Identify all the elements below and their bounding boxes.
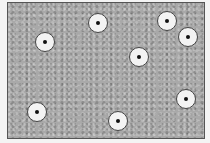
center-dot-icon — [43, 40, 47, 44]
center-dot-icon — [165, 19, 169, 23]
circle-dot-marker — [178, 27, 198, 47]
center-dot-icon — [137, 55, 141, 59]
center-dot-icon — [184, 97, 188, 101]
circle-dot-marker — [27, 102, 47, 122]
circle-dot-marker — [35, 32, 55, 52]
center-dot-icon — [186, 35, 190, 39]
center-dot-icon — [96, 21, 100, 25]
center-dot-icon — [116, 119, 120, 123]
diagram-canvas — [0, 0, 210, 143]
circle-dot-marker — [129, 47, 149, 67]
circle-dot-marker — [157, 11, 177, 31]
center-dot-icon — [35, 110, 39, 114]
circle-dot-marker — [108, 111, 128, 131]
circle-dot-marker — [88, 13, 108, 33]
circle-dot-marker — [176, 89, 196, 109]
